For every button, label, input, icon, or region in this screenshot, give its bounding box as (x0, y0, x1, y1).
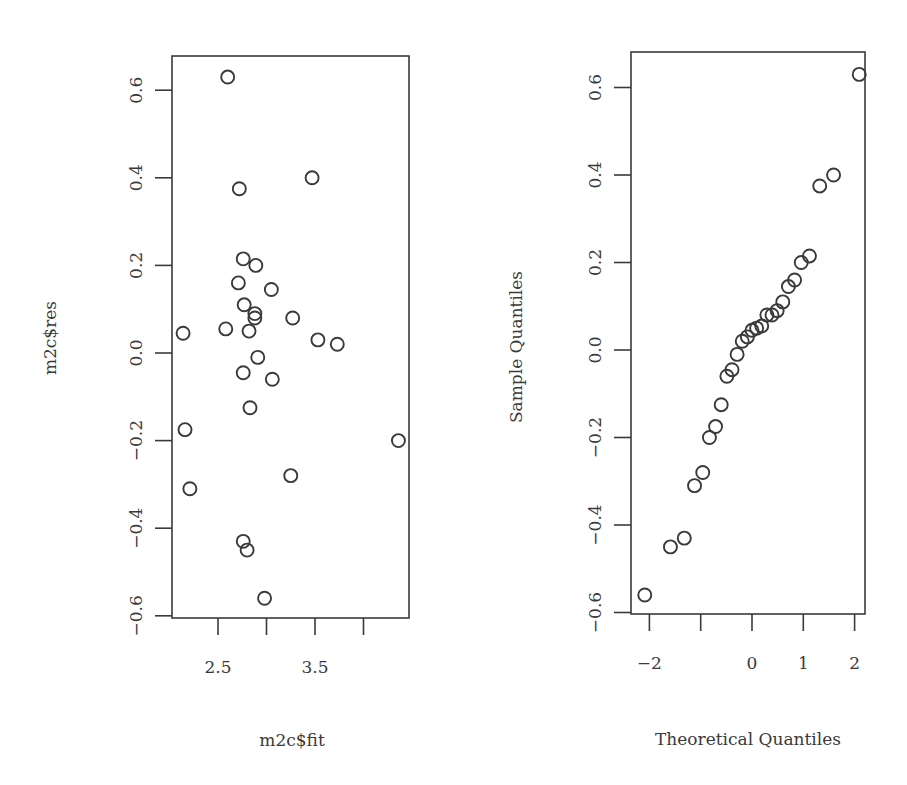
y-tick-label: −0.6 (126, 595, 146, 636)
figure-canvas: −0.6−0.4−0.20.00.20.40.62.53.5 −0.6−0.4−… (0, 0, 907, 785)
data-point (311, 333, 324, 346)
x-tick-label: −2 (637, 653, 662, 673)
data-point (813, 179, 826, 192)
data-point (183, 482, 196, 495)
right-x-axis-title: Theoretical Quantiles (628, 729, 868, 749)
y-tick-label: −0.6 (585, 592, 605, 633)
y-tick-label: −0.2 (126, 420, 146, 461)
y-tick-label: −0.4 (126, 508, 146, 549)
plot-frame (631, 52, 865, 614)
x-tick-label: 0 (747, 653, 758, 673)
data-point (286, 311, 299, 324)
y-tick-label: 0.2 (585, 249, 605, 276)
data-point (266, 373, 279, 386)
y-tick-label: 0.4 (585, 161, 605, 188)
data-point (853, 68, 866, 81)
data-point (243, 325, 256, 338)
data-point (696, 466, 709, 479)
right-y-axis-title: Sample Quantiles (506, 257, 526, 437)
data-point (244, 401, 257, 414)
data-point (249, 259, 262, 272)
residual-vs-fitted-plot: −0.6−0.4−0.20.00.20.40.62.53.5 (126, 56, 409, 677)
data-point (709, 420, 722, 433)
data-point (715, 398, 728, 411)
data-point (331, 338, 344, 351)
data-point (678, 532, 691, 545)
data-point (221, 71, 234, 84)
data-point (258, 592, 271, 605)
y-tick-label: 0.0 (126, 339, 146, 366)
normal-qq-plot: −0.6−0.4−0.20.00.20.40.6−2012 (585, 52, 866, 673)
data-point (827, 169, 840, 182)
y-tick-label: 0.0 (585, 336, 605, 363)
data-point (688, 479, 701, 492)
data-point (265, 283, 278, 296)
data-point (664, 540, 677, 553)
data-point (638, 589, 651, 602)
x-tick-label: 1 (798, 653, 809, 673)
data-point (237, 252, 250, 265)
left-y-axis-title: m2c$res (40, 268, 60, 408)
data-point (219, 322, 232, 335)
data-point (803, 249, 816, 262)
data-point (392, 434, 405, 447)
y-tick-label: 0.4 (126, 164, 146, 191)
y-tick-label: −0.4 (585, 504, 605, 545)
y-tick-label: 0.2 (126, 252, 146, 279)
data-point (232, 276, 245, 289)
y-tick-label: 0.6 (126, 77, 146, 104)
y-tick-label: 0.6 (585, 74, 605, 101)
data-point (179, 423, 192, 436)
left-x-axis-title: m2c$fit (222, 730, 362, 750)
data-point (795, 256, 808, 269)
data-point (251, 351, 264, 364)
data-point (233, 182, 246, 195)
data-point (284, 469, 297, 482)
x-tick-label: 2.5 (204, 657, 231, 677)
plot-frame (172, 56, 409, 618)
data-point (237, 366, 250, 379)
data-point (306, 171, 319, 184)
x-tick-label: 2 (849, 653, 860, 673)
x-tick-label: 3.5 (301, 657, 328, 677)
y-tick-label: −0.2 (585, 417, 605, 458)
data-point (177, 327, 190, 340)
data-point (731, 348, 744, 361)
